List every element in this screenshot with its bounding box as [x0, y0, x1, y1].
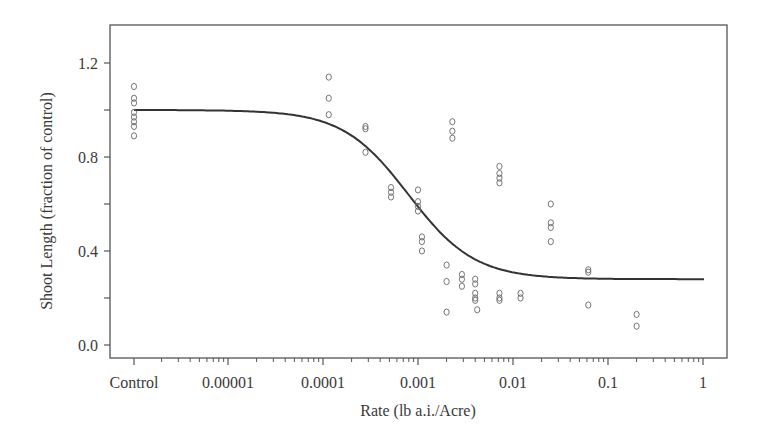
data-point: [388, 194, 393, 200]
y-tick-label: 0.0: [78, 337, 98, 354]
y-axis-title: Shoot Length (fraction of control): [38, 92, 56, 310]
data-point: [518, 295, 523, 301]
data-point: [450, 119, 455, 125]
data-point: [131, 133, 136, 139]
x-tick-label: 0.01: [499, 374, 527, 391]
y-tick-label: 0.8: [78, 149, 98, 166]
data-point: [419, 239, 424, 245]
data-point: [444, 262, 449, 268]
data-point: [497, 163, 502, 169]
data-point: [548, 239, 553, 245]
data-point: [548, 224, 553, 230]
data-point: [326, 74, 331, 80]
dose-response-chart: 0.00.40.81.2 Control0.000010.00010.0010.…: [0, 0, 761, 446]
data-point: [131, 123, 136, 129]
data-point: [131, 100, 136, 106]
x-tick-label: 0.0001: [301, 374, 345, 391]
data-point: [473, 281, 478, 287]
data-point: [634, 323, 639, 329]
x-tick-label: 1: [699, 374, 707, 391]
data-point: [419, 248, 424, 254]
fitted-curve: [134, 110, 704, 279]
x-axis: Control0.000010.00010.0010.010.11: [110, 358, 707, 391]
data-point: [450, 135, 455, 141]
x-tick-label: 0.1: [598, 374, 618, 391]
data-point: [475, 307, 480, 313]
data-point: [450, 128, 455, 134]
x-tick-label: 0.00001: [202, 374, 254, 391]
data-point: [131, 83, 136, 89]
data-point: [444, 278, 449, 284]
data-point: [497, 180, 502, 186]
data-point: [586, 302, 591, 308]
plot-frame: [110, 25, 727, 358]
x-tick-label: 0.001: [400, 374, 436, 391]
data-point: [326, 95, 331, 101]
data-point: [548, 201, 553, 207]
y-tick-label: 0.4: [78, 243, 98, 260]
data-points: [131, 74, 639, 329]
x-axis-title: Rate (lb a.i./Acre): [360, 402, 476, 420]
y-tick-label: 1.2: [78, 55, 98, 72]
data-point: [634, 311, 639, 317]
x-tick-label: Control: [110, 374, 159, 391]
data-point: [459, 276, 464, 282]
data-point: [415, 187, 420, 193]
data-point: [363, 149, 368, 155]
y-axis: 0.00.40.81.2: [78, 55, 110, 354]
data-point: [444, 309, 449, 315]
data-point: [326, 112, 331, 118]
data-point: [459, 283, 464, 289]
data-point: [415, 208, 420, 214]
